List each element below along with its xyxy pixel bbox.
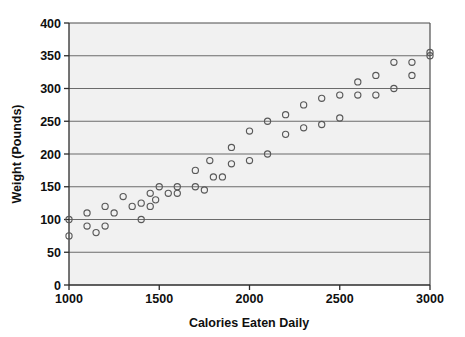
x-axis-tick-label: 3000 xyxy=(416,292,444,306)
y-axis-tick-label: 350 xyxy=(40,49,61,63)
y-axis-tick-label: 200 xyxy=(40,148,61,162)
chart-canvas: 050100150200250300350400 100015002000250… xyxy=(0,0,465,337)
x-axis-tick-label: 1000 xyxy=(55,292,83,306)
y-axis-tick-label: 0 xyxy=(54,279,61,293)
scatter-chart: 050100150200250300350400 100015002000250… xyxy=(0,0,465,337)
y-axis-group: 050100150200250300350400 xyxy=(40,17,69,293)
y-axis-tick-label: 400 xyxy=(40,17,61,31)
x-axis-title: Calories Eaten Daily xyxy=(189,316,309,330)
y-axis-tick-label: 250 xyxy=(40,115,61,129)
x-axis-group: 10001500200025003000 xyxy=(55,285,444,306)
y-axis-tick-label: 300 xyxy=(40,82,61,96)
y-axis-tick-label: 150 xyxy=(40,180,61,194)
y-axis-title: Weight (Pounds) xyxy=(10,104,24,203)
x-axis-tick-label: 1500 xyxy=(145,292,173,306)
x-axis-tick-label: 2000 xyxy=(236,292,264,306)
y-axis-tick-label: 100 xyxy=(40,213,61,227)
x-axis-tick-label: 2500 xyxy=(326,292,354,306)
y-axis-tick-label: 50 xyxy=(47,246,61,260)
